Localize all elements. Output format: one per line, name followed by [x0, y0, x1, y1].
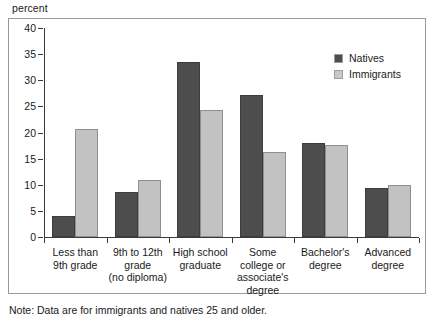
- bar-immigrants: [263, 152, 286, 237]
- chart-note: Note: Data are for immigrants and native…: [9, 304, 267, 316]
- y-tick-label: 25: [10, 100, 36, 112]
- category-label-line: college or: [232, 259, 295, 272]
- category-label-line: associate's: [232, 271, 295, 284]
- category-label-line: (no diploma): [107, 271, 170, 284]
- y-tick-mark: [38, 237, 43, 238]
- y-tick-mark: [38, 28, 43, 29]
- y-tick-mark: [38, 80, 43, 81]
- bar-natives: [115, 192, 138, 237]
- category-label: Somecollege orassociate'sdegree: [232, 246, 295, 296]
- x-tick-mark: [44, 238, 45, 243]
- category-label-line: Bachelor's: [294, 246, 357, 259]
- y-tick-label: 0: [10, 231, 36, 243]
- y-tick-mark: [38, 133, 43, 134]
- category-label-line: 9th grade: [44, 259, 107, 272]
- legend-item-natives: Natives: [334, 50, 401, 66]
- legend-label-immigrants: Immigrants: [349, 68, 401, 80]
- y-tick-label: 20: [10, 127, 36, 139]
- x-tick-mark: [357, 238, 358, 243]
- bar-immigrants: [75, 129, 98, 237]
- y-tick-label: 5: [10, 205, 36, 217]
- category-label-line: High school: [169, 246, 232, 259]
- category-label: High schoolgraduate: [169, 246, 232, 271]
- y-tick-label: 40: [10, 22, 36, 34]
- bar-natives: [365, 188, 388, 237]
- y-axis-title: percent: [12, 2, 48, 14]
- bar-natives: [302, 143, 325, 237]
- category-label-line: Less than: [44, 246, 107, 259]
- category-label: Advanceddegree: [357, 246, 420, 271]
- category-label-line: 9th to 12th: [107, 246, 170, 259]
- category-label: 9th to 12thgrade(no diploma): [107, 246, 170, 284]
- chart-page: percent 0510152025303540 Less than9th gr…: [0, 0, 437, 323]
- category-label: Bachelor'sdegree: [294, 246, 357, 271]
- legend-label-natives: Natives: [349, 52, 384, 64]
- bar-natives: [240, 95, 263, 237]
- category-label-line: degree: [232, 284, 295, 297]
- category-label-line: graduate: [169, 259, 232, 272]
- x-tick-mark: [419, 238, 420, 243]
- bar-immigrants: [325, 145, 348, 237]
- bar-immigrants: [200, 110, 223, 237]
- y-tick-label: 15: [10, 153, 36, 165]
- y-tick-label: 35: [10, 48, 36, 60]
- category-label-line: grade: [107, 259, 170, 272]
- category-label-line: degree: [357, 259, 420, 272]
- bar-natives: [177, 62, 200, 237]
- category-label-line: degree: [294, 259, 357, 272]
- y-tick-label: 30: [10, 74, 36, 86]
- x-tick-mark: [107, 238, 108, 243]
- legend-item-immigrants: Immigrants: [334, 66, 401, 82]
- category-label: Less than9th grade: [44, 246, 107, 271]
- y-tick-mark: [38, 106, 43, 107]
- y-tick-label: 10: [10, 179, 36, 191]
- x-tick-mark: [232, 238, 233, 243]
- x-tick-mark: [294, 238, 295, 243]
- legend: Natives Immigrants: [334, 50, 401, 82]
- y-tick-mark: [38, 185, 43, 186]
- category-label-line: Some: [232, 246, 295, 259]
- x-tick-mark: [169, 238, 170, 243]
- y-tick-mark: [38, 159, 43, 160]
- y-tick-mark: [38, 211, 43, 212]
- bar-immigrants: [388, 185, 411, 237]
- bar-immigrants: [138, 180, 161, 237]
- y-tick-mark: [38, 54, 43, 55]
- legend-swatch-natives-icon: [334, 54, 343, 63]
- legend-swatch-immigrants-icon: [334, 70, 343, 79]
- bar-natives: [52, 216, 75, 237]
- category-label-line: Advanced: [357, 246, 420, 259]
